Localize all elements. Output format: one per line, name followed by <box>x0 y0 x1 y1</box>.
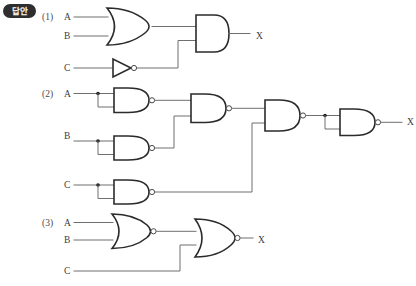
nand-gate-c2-b-body <box>114 136 149 160</box>
wire-c1-not-to-and <box>137 41 196 69</box>
nand-gate-c2-b <box>114 136 155 160</box>
nor-gate-c3-out <box>195 219 240 257</box>
nand-gate-c2-final-body <box>340 109 375 136</box>
nand-gate-c2-a-bubble <box>149 98 154 103</box>
nand-gate-c2-c <box>114 180 155 204</box>
wire-c2-final-branch <box>325 116 340 130</box>
nand-gate-c2-a <box>114 88 155 113</box>
nor-gate-c3-ab <box>112 214 156 249</box>
circuit-1: (1) A B C X <box>42 8 263 77</box>
and-gate-c1-body <box>196 15 229 52</box>
circuit-3-input-b-label: B <box>64 235 70 245</box>
nor-gate-c3-ab-bubble <box>151 229 156 234</box>
circuit-1-output-x-label: X <box>256 31 263 41</box>
not-gate-c1 <box>113 59 137 77</box>
or-gate-c1 <box>107 8 149 45</box>
wire-c3-c <box>74 245 196 271</box>
and-gate-c1 <box>196 15 229 52</box>
answer-badge-label: 답안 <box>12 6 28 16</box>
circuit-3-output-x-label: X <box>258 235 265 245</box>
nand-gate-c2-stage3-bubble <box>300 113 305 118</box>
not-gate-c1-body <box>113 59 131 77</box>
nand-gate-c2-b-bubble <box>149 145 154 150</box>
circuit-2-input-c-label: C <box>64 180 70 190</box>
circuit-1-input-a-label: A <box>64 12 71 22</box>
nand-gate-c2-c-bubble <box>149 189 154 194</box>
wire-c2-nand-b-out <box>155 116 191 148</box>
circuit-3-input-a-label: A <box>64 218 71 228</box>
nand-gate-c2-ab-body <box>191 94 226 123</box>
circuit-3-number: (3) <box>42 218 53 229</box>
wire-c2-nand-c-out <box>155 123 265 192</box>
nor-gate-c3-ab-body <box>112 214 151 249</box>
wire-c2-c-branch <box>98 185 114 199</box>
circuit-1-number: (1) <box>42 12 53 23</box>
circuit-1-input-c-label: C <box>64 63 70 73</box>
circuit-2-number: (2) <box>42 89 53 100</box>
circuit-3-input-c-label: C <box>64 266 70 276</box>
circuit-2: (2) A B C X <box>42 88 414 204</box>
nand-gate-c2-stage3-body <box>265 100 300 131</box>
nand-gate-c2-c-body <box>114 180 149 204</box>
wire-c2-b-branch <box>98 141 114 155</box>
nor-gate-c3-out-bubble <box>235 235 240 240</box>
circuit-1-input-b-label: B <box>64 31 70 41</box>
or-gate-c1-body <box>107 8 149 45</box>
circuit-3: (3) A B C X <box>42 214 265 276</box>
nand-gate-c2-final <box>340 109 381 136</box>
circuit-2-input-a-label: A <box>64 89 71 99</box>
nand-gate-c2-a-body <box>114 88 149 113</box>
diagram-canvas: 답안 (1) A B C X <box>0 0 416 286</box>
circuit-2-output-x-label: X <box>407 117 414 127</box>
nand-gate-c2-final-bubble <box>375 120 380 125</box>
nand-gate-c2-stage3 <box>265 100 306 131</box>
not-gate-c1-bubble <box>131 65 136 70</box>
nor-gate-c3-out-body <box>195 219 235 257</box>
nand-gate-c2-ab <box>191 94 232 123</box>
wire-c2-a-branch <box>98 94 114 108</box>
circuit-2-input-b-label: B <box>64 131 70 141</box>
logic-circuit-diagram: 답안 (1) A B C X <box>0 0 416 286</box>
nand-gate-c2-ab-bubble <box>226 106 231 111</box>
answer-badge: 답안 <box>3 4 36 18</box>
